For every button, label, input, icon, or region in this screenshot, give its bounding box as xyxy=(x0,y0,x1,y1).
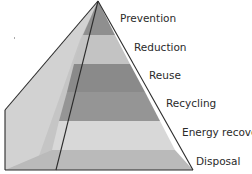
level-label-reuse: Reuse xyxy=(149,69,181,81)
level-label-recycling: Recycling xyxy=(166,97,216,109)
level-label-reduction: Reduction xyxy=(134,41,187,53)
level-label-energy-recovery: Energy recovery xyxy=(182,126,252,138)
pyramid-graphic xyxy=(0,0,252,174)
band-energy-recovery xyxy=(52,121,175,150)
level-label-disposal: Disposal xyxy=(196,155,240,167)
band-reduction xyxy=(74,35,130,64)
level-label-prevention: Prevention xyxy=(120,12,176,24)
